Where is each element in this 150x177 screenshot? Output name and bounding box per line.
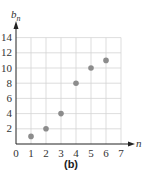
x-axis-arrow-icon [128, 142, 135, 147]
x-tick-label: 7 [118, 147, 124, 159]
y-tick-label: 10 [1, 62, 13, 74]
y-tick-label: 6 [7, 92, 13, 104]
y-tick-label: 4 [7, 107, 13, 119]
x-tick-label: 2 [43, 147, 49, 159]
x-axis-label: n [136, 137, 142, 149]
figure-caption: (b) [64, 158, 78, 170]
data-point [28, 134, 34, 140]
data-point [73, 80, 79, 86]
data-point [88, 65, 94, 71]
x-tick-label: 5 [88, 147, 94, 159]
y-axis-label: bn [11, 8, 21, 23]
y-tick-label: 2 [7, 122, 13, 134]
data-point [103, 58, 109, 64]
y-tick-label: 14 [1, 31, 13, 43]
x-tick-label: 1 [28, 147, 34, 159]
data-point [58, 111, 64, 117]
y-tick-label: 12 [1, 46, 12, 58]
grid-lines [16, 38, 121, 144]
data-point [43, 126, 49, 132]
x-tick-label: 6 [103, 147, 109, 159]
y-tick-label: 8 [7, 77, 13, 89]
x-tick-label: 0 [13, 147, 19, 159]
scatter-chart: 012345672468101214 bn n (b) [0, 0, 150, 177]
